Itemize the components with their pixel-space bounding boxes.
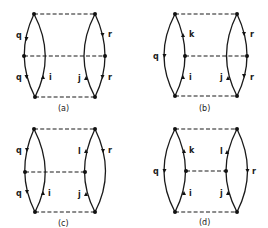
arrow-down-icon (101, 33, 105, 37)
vertex-node (245, 54, 249, 58)
propagator-label: k (189, 30, 195, 39)
propagator-label: q (16, 189, 22, 198)
panel-caption: (d) (199, 218, 210, 227)
propagator-label: l (220, 147, 223, 156)
propagator-label: q (16, 31, 22, 40)
vertex-node (93, 95, 97, 99)
right-lens-outer-arc (95, 129, 106, 212)
propagator-label: j (219, 189, 223, 198)
propagator-label: j (77, 74, 81, 83)
vertex-node (32, 12, 36, 16)
right-lens-inner-arc (227, 14, 238, 96)
propagator-label: l (78, 147, 81, 156)
vertex-node (235, 94, 239, 98)
propagator-label: i (48, 189, 51, 198)
propagator-label: i (49, 73, 52, 82)
panel-d: q k i l j r (d) (153, 127, 256, 227)
propagator-label: j (219, 73, 223, 82)
propagator-label: q (153, 167, 159, 176)
panel-c: q q i l j r (c) (16, 127, 112, 228)
arrow-down-icon (242, 32, 246, 36)
arrow-down-icon (25, 148, 29, 152)
propagator-label: r (250, 30, 254, 39)
vertex-node (173, 12, 177, 16)
vertex-node (183, 54, 187, 58)
left-lens-inner-arc (34, 129, 45, 212)
propagator-label: k (189, 146, 195, 155)
vertex-node (235, 127, 239, 131)
propagator-label: q (153, 52, 159, 61)
panel-caption: (c) (58, 219, 69, 228)
vertex-node (235, 12, 239, 16)
vertex-node (235, 210, 239, 214)
panel-a: q q i r r j (a) (16, 12, 112, 113)
arrow-down-icon (101, 149, 105, 153)
vertex-node (93, 127, 97, 131)
arrow-up-icon (41, 75, 45, 79)
propagator-label: q (16, 73, 22, 82)
vertex-node (173, 210, 177, 214)
vertex-node (33, 210, 37, 214)
panel-b: q k i r r j (b) (153, 12, 254, 113)
propagator-label: i (189, 73, 192, 82)
vertex-node (93, 210, 97, 214)
vertex-node (184, 169, 188, 173)
vertex-node (173, 94, 177, 98)
vertex-node (224, 169, 228, 173)
arrow-down-icon (101, 75, 105, 79)
arrow-up-icon (41, 191, 45, 195)
vertex-node (23, 170, 27, 174)
vertex-node (83, 170, 87, 174)
propagator-label: r (250, 73, 254, 82)
propagator-label: r (108, 146, 112, 155)
propagator-label: i (189, 189, 192, 198)
propagator-label: r (252, 167, 256, 176)
propagator-label: q (16, 146, 22, 155)
right-lens-outer-arc (237, 129, 248, 212)
arrow-down-icon (246, 169, 250, 173)
panel-caption: (a) (58, 104, 69, 113)
vertex-node (93, 12, 97, 16)
propagator-label: r (108, 73, 112, 82)
arrow-down-icon (163, 169, 167, 173)
vertex-node (173, 127, 177, 131)
propagator-label: r (108, 30, 112, 39)
panel-caption: (b) (199, 104, 210, 113)
arrow-down-icon (242, 74, 246, 78)
diagram-figure: q q i r r j (a) q k i r r j (b) (0, 0, 268, 228)
propagator-label: j (77, 190, 81, 199)
left-lens-inner-arc (175, 129, 186, 212)
vertex-node (22, 54, 26, 58)
vertex-node (33, 95, 37, 99)
vertex-node (103, 54, 107, 58)
vertex-node (32, 127, 36, 131)
arrow-down-icon (163, 54, 167, 58)
